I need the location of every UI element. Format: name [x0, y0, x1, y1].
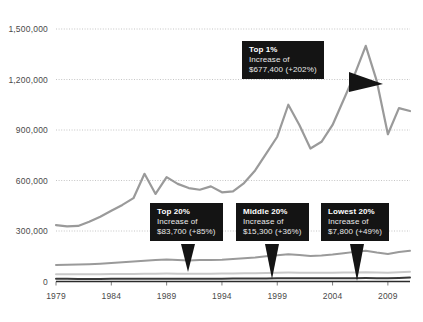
annotation-middle-20-percent: Middle 20% Increase of $15,300 (+36%) — [236, 203, 309, 241]
x-axis-tick-label: 2009 — [378, 291, 398, 301]
x-axis-tick-label: 1989 — [157, 291, 177, 301]
pointer-top-20-percent — [181, 244, 195, 272]
x-axis-tick-label: 2004 — [323, 291, 343, 301]
annotation-line-2: $83,700 (+85%) — [157, 227, 216, 237]
annotation-line-2: $7,800 (+49%) — [328, 227, 382, 237]
x-axis-tick-label: 1994 — [212, 291, 232, 301]
x-axis-tick-label: 1979 — [46, 291, 66, 301]
annotation-line-2: $677,400 (+202%) — [249, 65, 317, 75]
annotation-line-1: Increase of — [243, 217, 302, 227]
x-axis-tick-label: 1984 — [101, 291, 121, 301]
y-axis-tick-label: 300,000 — [0, 226, 48, 236]
annotation-title: Middle 20% — [243, 207, 302, 217]
y-axis-tick-label: 600,000 — [0, 176, 48, 186]
annotation-title: Top 20% — [157, 207, 216, 217]
pointer-lowest-20-percent — [350, 244, 364, 281]
annotation-line-2: $15,300 (+36%) — [243, 227, 302, 237]
x-axis-tick-label: 1999 — [267, 291, 287, 301]
annotation-top-1-percent: Top 1% Increase of $677,400 (+202%) — [242, 41, 324, 79]
chart-plot-area — [0, 0, 423, 322]
income-growth-line-chart: 1,500,0001,200,000900,000600,000300,0000… — [0, 0, 423, 322]
annotation-title: Lowest 20% — [328, 207, 382, 217]
annotation-line-1: Increase of — [328, 217, 382, 227]
annotation-lowest-20-percent: Lowest 20% Increase of $7,800 (+49%) — [321, 203, 389, 241]
annotation-top-20-percent: Top 20% Increase of $83,700 (+85%) — [150, 203, 223, 241]
gridlines — [56, 29, 410, 231]
annotation-line-1: Increase of — [249, 55, 317, 65]
y-axis-tick-label: 1,200,000 — [0, 75, 48, 85]
callout-pointers — [181, 72, 383, 281]
annotation-title: Top 1% — [249, 45, 317, 55]
series-line — [56, 46, 410, 227]
annotation-line-1: Increase of — [157, 217, 216, 227]
y-axis-tick-label: 1,500,000 — [0, 24, 48, 34]
y-axis-tick-label: 900,000 — [0, 125, 48, 135]
y-axis-tick-label: 0 — [0, 277, 48, 287]
